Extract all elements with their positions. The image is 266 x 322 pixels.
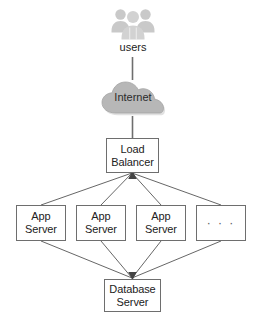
node-load-balancer: Load Balancer bbox=[106, 138, 159, 173]
users-group-icon bbox=[110, 6, 156, 40]
node-app-server-1-line-1: App bbox=[31, 210, 50, 223]
node-app-server-3-line-2: Server bbox=[145, 223, 177, 236]
node-app-server-2-line-2: Server bbox=[85, 223, 117, 236]
node-users-label: users bbox=[120, 41, 147, 54]
node-database-server: Database Server bbox=[104, 279, 161, 312]
node-load-balancer-line-1: Load bbox=[120, 143, 144, 156]
edges-load-balancer-to-app-servers bbox=[41, 171, 221, 205]
node-internet bbox=[100, 80, 166, 116]
node-app-server-more-ellipsis: · · · bbox=[207, 217, 236, 230]
node-users: users bbox=[103, 6, 163, 54]
node-database-server-line-2: Server bbox=[117, 296, 149, 309]
node-app-server-1-line-2: Server bbox=[25, 223, 57, 236]
node-app-server-2-line-1: App bbox=[91, 210, 110, 223]
node-load-balancer-line-2: Balancer bbox=[111, 156, 154, 169]
node-database-server-line-1: Database bbox=[109, 283, 155, 296]
node-app-server-more: · · · bbox=[196, 205, 246, 241]
cloud-icon bbox=[100, 80, 166, 116]
node-app-server-2: App Server bbox=[76, 205, 126, 241]
node-app-server-3: App Server bbox=[136, 205, 186, 241]
node-app-server-3-line-1: App bbox=[151, 210, 170, 223]
node-app-server-1: App Server bbox=[16, 205, 66, 241]
architecture-diagram: users Internet Load Balancer App Server … bbox=[0, 0, 266, 322]
edges-app-servers-to-database bbox=[41, 241, 221, 280]
